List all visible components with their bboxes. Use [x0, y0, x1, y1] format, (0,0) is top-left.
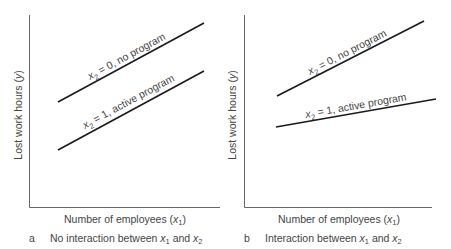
panel-a-xlabel: Number of employees (x1)	[64, 213, 186, 227]
panel-b-xlabel: Number of employees (x1)	[278, 213, 400, 227]
panel-b-caption-letter: b	[244, 232, 250, 244]
panel-a-label-active-program: x2 = 1, active program	[79, 71, 177, 134]
panel-b-caption: Interaction between x1 and x2	[265, 232, 402, 246]
panel-b-ylabel: Lost work hours (y)	[226, 70, 238, 159]
figure: x2 = 0, no program x2 = 1, active progra…	[0, 0, 451, 249]
panel-a-line-active-program	[58, 71, 204, 150]
panel-b-line-no-program	[277, 21, 424, 96]
panel-b: x2 = 0, no program x2 = 1, active progra…	[226, 15, 436, 246]
panel-b-label-no-program: x2 = 0, no program	[305, 27, 390, 80]
panel-a: x2 = 0, no program x2 = 1, active progra…	[12, 15, 220, 246]
panel-a-axes	[30, 15, 221, 208]
panel-a-line-no-program	[58, 23, 204, 102]
panel-a-caption-letter: a	[29, 232, 35, 244]
panel-a-label-no-program: x2 = 0, no program	[84, 30, 169, 85]
panel-a-caption: No interaction between x1 and x2	[50, 232, 203, 246]
panel-a-ylabel: Lost work hours (y)	[12, 70, 24, 159]
